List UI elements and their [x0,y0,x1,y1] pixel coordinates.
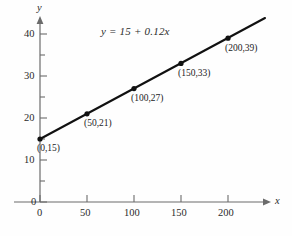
y-major-ticks [40,34,47,202]
x-tick-label-150: 150 [171,208,187,219]
data-point-marker [178,61,183,66]
y-tick-label-40: 40 [24,29,35,40]
x-tick-label-0: 0 [37,208,42,219]
y-axis-arrow [37,16,44,24]
point-label-50-21: (50,21) [84,119,112,129]
x-axis-label: x [275,196,280,207]
equation-annotation: y = 15 + 0.12x [101,26,170,37]
data-point-marker [131,86,136,91]
y-tick-label-30: 30 [24,71,35,82]
point-label-200-39: (200,39) [225,44,257,54]
y-tick-label-10: 10 [24,155,35,166]
point-label-100-27: (100,27) [131,94,163,104]
data-point-marker [84,111,89,116]
x-tick-label-200: 200 [218,208,234,219]
point-label-0-15: (0,15) [37,144,60,154]
x-major-ticks [40,195,228,202]
chart-figure: y x 0 10 20 30 40 0 50 100 150 200 y = 1… [0,0,292,236]
y-tick-label-0: 0 [31,197,36,208]
x-tick-label-100: 100 [124,208,140,219]
x-tick-label-50: 50 [80,208,91,219]
data-point-marker [37,136,42,141]
x-axis-arrow [263,199,271,206]
point-label-150-33: (150,33) [178,69,210,79]
y-axis-label: y [37,3,42,14]
y-tick-label-20: 20 [24,113,35,124]
data-point-marker [225,36,230,41]
